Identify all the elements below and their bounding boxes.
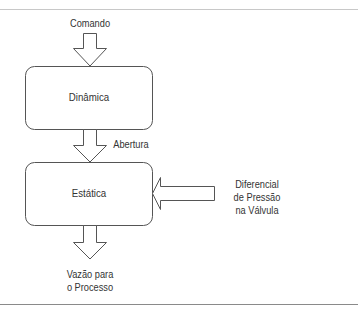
block-estatica-label: Estática [33,187,146,199]
disturbance-label: Diferencial de Pressão na Válvula [222,178,292,217]
disturbance-line-1: Diferencial [226,178,288,191]
diagram-canvas [0,0,359,317]
arrow-down-icon [74,34,107,67]
disturbance-line-2: de Pressão [226,191,288,204]
output-line-1: Vazão para [59,268,121,281]
arrow-down-icon [74,226,107,260]
block-dinamica-label: Dinâmica [33,91,146,103]
disturbance-line-3: na Válvula [226,204,288,217]
input-label: Comando [64,17,117,30]
intermediate-label: Abertura [109,138,153,151]
arrow-down-icon [74,130,107,163]
arrow-left-icon [153,178,215,210]
output-label: Vazão para o Processo [55,268,125,294]
output-line-2: o Processo [59,281,121,294]
